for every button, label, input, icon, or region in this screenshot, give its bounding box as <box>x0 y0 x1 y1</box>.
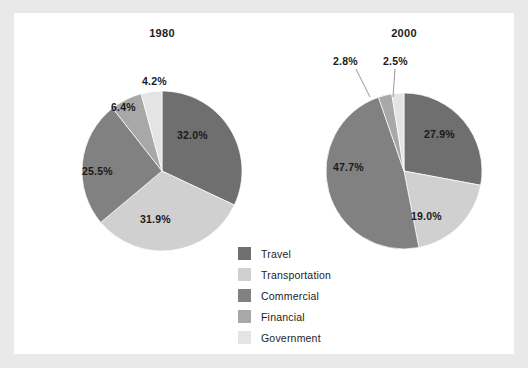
pie-slice-government[interactable] <box>392 93 404 171</box>
chart-panel: 1980 2000 32.0%31.9%25.5%6.4%4.2%27.9%19… <box>14 13 514 354</box>
slice-label-2000-transportation: 19.0% <box>411 210 442 222</box>
figure-root: 1980 2000 32.0%31.9%25.5%6.4%4.2%27.9%19… <box>0 0 528 368</box>
leader-line-1 <box>393 69 395 97</box>
slice-label-1980-financial: 6.4% <box>111 101 136 113</box>
pie-slice-commercial[interactable] <box>326 97 419 249</box>
legend-label-transportation: Transportation <box>261 269 331 281</box>
legend-label-financial: Financial <box>261 311 305 323</box>
slice-label-1980-government: 4.2% <box>142 75 167 87</box>
legend-label-commercial: Commercial <box>261 290 319 302</box>
slice-label-2000-government: 2.5% <box>383 55 408 67</box>
slice-label-1980-transportation: 31.9% <box>140 213 171 225</box>
slice-label-2000-financial: 2.8% <box>333 55 358 67</box>
legend: Travel Transportation Commercial Financi… <box>238 243 331 348</box>
legend-item-commercial[interactable]: Commercial <box>238 285 331 306</box>
slice-label-1980-travel: 32.0% <box>177 129 208 141</box>
pie-slice-transportation[interactable] <box>101 171 235 251</box>
legend-item-travel[interactable]: Travel <box>238 243 331 264</box>
legend-item-transportation[interactable]: Transportation <box>238 264 331 285</box>
legend-swatch-travel <box>238 247 251 260</box>
legend-swatch-transportation <box>238 268 251 281</box>
legend-label-government: Government <box>261 332 321 344</box>
legend-label-travel: Travel <box>261 248 291 260</box>
legend-item-government[interactable]: Government <box>238 327 331 348</box>
pie-slice-financial[interactable] <box>378 94 404 171</box>
pie-slice-travel[interactable] <box>162 91 242 205</box>
leader-line-0 <box>356 69 370 97</box>
legend-item-financial[interactable]: Financial <box>238 306 331 327</box>
legend-swatch-government <box>238 331 251 344</box>
chart-title-2000: 2000 <box>364 27 444 39</box>
pie-slice-government[interactable] <box>141 91 162 171</box>
chart-title-1980: 1980 <box>122 27 202 39</box>
slice-label-2000-commercial: 47.7% <box>333 161 364 173</box>
legend-swatch-commercial <box>238 289 251 302</box>
slice-label-1980-commercial: 25.5% <box>82 165 113 177</box>
legend-swatch-financial <box>238 310 251 323</box>
slice-label-2000-travel: 27.9% <box>424 128 455 140</box>
